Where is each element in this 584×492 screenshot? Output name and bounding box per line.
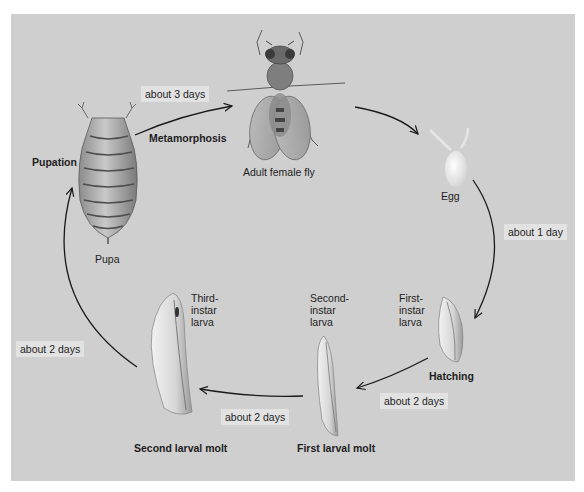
third-instar-larva-icon: [151, 293, 192, 414]
first-instar-larva-icon: [439, 297, 463, 362]
event-label-pupation: Pupation: [32, 156, 77, 168]
stage-label-third-instar: Third- instar larva: [191, 292, 218, 328]
stage-label-first-instar: First- instar larva: [399, 292, 425, 328]
duration-label-pupa-to-adult: about 3 days: [141, 86, 209, 102]
event-label-second-molt: Second larval molt: [134, 442, 227, 454]
arrow-egg-to-first-instar: [473, 180, 495, 318]
arrow-adult-to-egg: [355, 107, 418, 134]
event-label-hatching: Hatching: [429, 370, 474, 382]
duration-label-second-to-third: about 2 days: [221, 409, 289, 425]
pupa-icon: [78, 102, 137, 244]
stage-label-pupa: Pupa: [95, 253, 120, 265]
duration-label-first-to-second: about 2 days: [380, 393, 448, 409]
stage-label-second-instar: Second- instar larva: [310, 292, 349, 328]
stage-label-egg: Egg: [441, 190, 460, 202]
arrow-second-to-third-instar: [200, 389, 303, 396]
adult-fly-icon: [227, 30, 345, 162]
diagram-artwork: [0, 0, 584, 492]
duration-label-egg-to-larva: about 1 day: [504, 224, 567, 240]
arrow-pupa-to-adult: [135, 106, 232, 135]
second-instar-larva-icon: [318, 336, 339, 436]
duration-label-third-to-pupa: about 2 days: [16, 341, 84, 357]
arrow-first-to-second-instar: [357, 358, 428, 388]
event-label-metamorphosis: Metamorphosis: [149, 132, 227, 144]
stage-label-adult: Adult female fly: [243, 166, 315, 178]
event-label-first-molt: First larval molt: [297, 442, 375, 454]
egg-icon: [430, 128, 468, 187]
